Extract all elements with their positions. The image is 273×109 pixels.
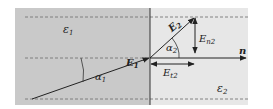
refraction-diagram: ε1 ε2 α1 α2 E1 E2 En2 Et2 n [0, 0, 273, 109]
dielectric-region-2 [150, 8, 248, 105]
normal-label: n [239, 45, 246, 56]
